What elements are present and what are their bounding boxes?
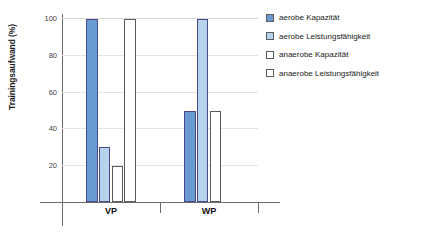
bar-wp-series-1 <box>197 19 209 202</box>
xtick-label-wp: WP <box>202 206 217 216</box>
bar-vp-series-1 <box>99 147 111 202</box>
ytick-label-40: 40 <box>49 124 57 133</box>
ytick-label-80: 80 <box>49 50 57 59</box>
legend-label-3: anaerobe Leistungsfähigkeit <box>279 69 379 78</box>
legend-item-aerobe-leistungsfaehigkeit: aerobe Leistungsfähigkeit <box>266 29 430 44</box>
bars-layer <box>62 14 258 202</box>
legend-label-2: anaerobe Kapazität <box>279 50 348 59</box>
bar-vp-series-2 <box>112 166 124 203</box>
x-axis-group-divider <box>160 202 161 213</box>
xtick-label-vp: VP <box>105 206 117 216</box>
x-axis-right-tick <box>258 202 259 213</box>
legend-label-1: aerobe Leistungsfähigkeit <box>279 32 370 41</box>
legend-item-aerobe-kapazitaet: aerobe Kapazität <box>266 10 430 25</box>
y-axis-title: Trainingsaufwand (%) <box>0 0 24 200</box>
legend-item-anaerobe-kapazitaet: anaerobe Kapazität <box>266 47 430 62</box>
chart-legend: aerobe Kapazität aerobe Leistungsfähigke… <box>266 10 430 84</box>
bar-vp-series-0 <box>86 19 98 202</box>
ytick-label-100: 100 <box>44 14 57 23</box>
bar-vp-series-3 <box>124 19 136 202</box>
y-axis-title-label: Trainingsaufwand (%) <box>7 24 17 110</box>
bar-wp-series-0 <box>184 111 196 202</box>
plot-area: 100 80 60 40 20 <box>62 14 258 202</box>
ytick-label-20: 20 <box>49 160 57 169</box>
legend-swatch-icon-3 <box>266 69 274 77</box>
legend-swatch-icon-2 <box>266 51 274 59</box>
legend-item-anaerobe-leistungsfaehigkeit: anaerobe Leistungsfähigkeit <box>266 66 430 81</box>
legend-swatch-icon-1 <box>266 32 274 40</box>
x-axis-left-tick <box>62 202 63 226</box>
bar-wp-series-2 <box>210 111 222 202</box>
legend-label-0: aerobe Kapazität <box>279 13 340 22</box>
legend-swatch-icon-0 <box>266 14 274 22</box>
bar-chart-figure: Trainingsaufwand (%) 100 80 60 40 20 <box>0 0 430 250</box>
ytick-label-60: 60 <box>49 87 57 96</box>
